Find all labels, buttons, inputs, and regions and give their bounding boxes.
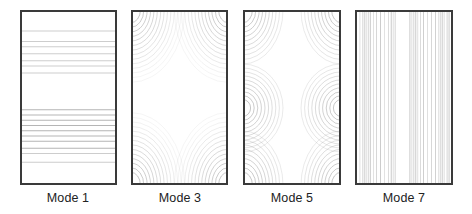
mode-7-label: Mode 7	[344, 191, 464, 205]
mode-3-plot	[131, 10, 228, 185]
mode-5-plot	[243, 10, 341, 185]
mode-1-plot	[20, 10, 117, 185]
mode-3-contours	[131, 10, 228, 185]
mode-7-plot	[355, 10, 453, 185]
mode-1-label: Mode 1	[8, 191, 128, 205]
mode-5-contours	[243, 10, 341, 185]
mode-1-contours	[20, 10, 117, 185]
mode-3-label: Mode 3	[120, 191, 240, 205]
mode-5-label: Mode 5	[232, 191, 352, 205]
mode-7-contours	[355, 10, 453, 185]
